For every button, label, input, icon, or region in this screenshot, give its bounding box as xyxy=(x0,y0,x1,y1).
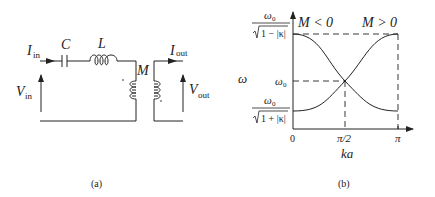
capacitor-label: C xyxy=(61,37,71,52)
inductor-icon xyxy=(90,55,117,65)
x-tick-pi: π xyxy=(395,132,401,144)
capacitor-icon xyxy=(62,55,67,67)
secondary-coil-icon xyxy=(154,81,160,99)
y-tick-upper-num-sub: 0 xyxy=(272,15,276,23)
x-axis-label: ka xyxy=(341,146,354,161)
y-tick-lower-num-sub: 0 xyxy=(272,100,276,108)
inductor-label: L xyxy=(97,36,106,51)
curve-m-positive xyxy=(293,34,398,111)
y-axis-label: ω xyxy=(238,71,247,86)
input-voltage-subscript: in xyxy=(25,91,33,101)
y-tick-lower: ω 0 1 + |κ| xyxy=(252,94,290,124)
circuit-labels: I in C L M I out V in V out (a) xyxy=(16,36,210,190)
x-tick-half-pi: π/2 xyxy=(337,132,352,144)
figure-a-caption: (a) xyxy=(91,178,102,190)
y-tick-lower-num: ω xyxy=(264,94,272,106)
y-tick-upper: ω 0 1 − |κ| xyxy=(252,9,290,39)
primary-dot-icon xyxy=(122,79,124,81)
dispersion-plot: M < 0 M > 0 ω ω 0 1 − |κ| ω 0 ω 0 1 + |κ… xyxy=(238,9,413,190)
secondary-dot-icon xyxy=(160,100,162,102)
y-tick-upper-den: 1 − |κ| xyxy=(261,28,286,39)
y-tick-mid: ω 0 xyxy=(275,75,287,89)
output-voltage-subscript: out xyxy=(198,90,210,100)
input-current-subscript: in xyxy=(33,50,41,60)
output-current-label: I xyxy=(169,43,176,58)
curve-m-negative xyxy=(293,34,398,111)
x-tick-zero: 0 xyxy=(290,133,295,144)
mutual-inductance-label: M xyxy=(136,63,150,78)
output-current-subscript: out xyxy=(176,48,188,58)
y-tick-lower-den: 1 + |κ| xyxy=(261,113,286,124)
y-tick-mid-sub: 0 xyxy=(283,81,287,89)
circuit-diagram xyxy=(40,55,183,121)
y-tick-mid-label: ω xyxy=(275,75,283,87)
primary-coil-icon xyxy=(130,81,136,99)
y-tick-upper-num: ω xyxy=(264,9,272,21)
region-label-m-positive: M > 0 xyxy=(361,15,397,30)
input-current-label: I xyxy=(26,43,33,58)
figure-b-caption: (b) xyxy=(338,178,350,190)
input-current-arrow-icon xyxy=(46,58,55,64)
region-label-m-negative: M < 0 xyxy=(297,15,333,30)
output-current-arrow-icon xyxy=(168,58,177,64)
figure-canvas: I in C L M I out V in V out (a) M < 0 M … xyxy=(0,0,435,197)
